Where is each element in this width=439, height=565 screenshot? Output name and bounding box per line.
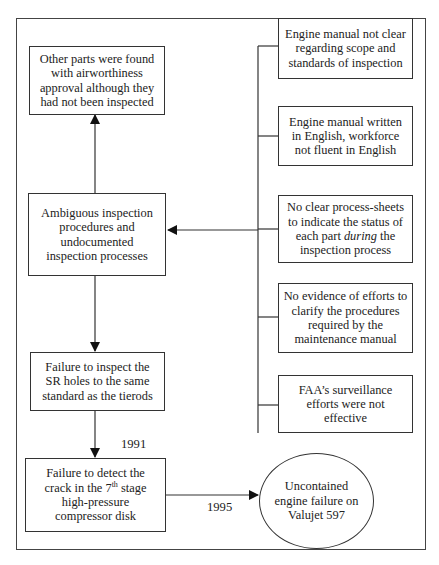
failure-detect-crack-box: Failure to detect the crack in the 7th s… xyxy=(25,458,166,532)
failure-sr-holes-text: Failure to inspect the SR holes to the s… xyxy=(39,360,156,403)
ambiguous-procedures-text: Ambiguous inspection procedures and undo… xyxy=(39,206,155,263)
outcome-ellipse: Uncontained engine failure on Valujet 59… xyxy=(259,453,374,549)
factor-faa-surveillance: FAA’s surveillance efforts were not effe… xyxy=(278,375,413,433)
ambiguous-procedures-box: Ambiguous inspection procedures and undo… xyxy=(28,193,166,276)
year-label-1991: 1991 xyxy=(121,437,146,452)
factor-no-process-sheets: No clear process-sheets to indicate the … xyxy=(278,195,413,263)
other-parts-text: Other parts were found with airworthines… xyxy=(34,52,160,109)
factor-manual-in-english: Engine manual written in English, workfo… xyxy=(278,106,413,166)
failure-detect-crack-text: Failure to detect the crack in the 7th s… xyxy=(32,466,159,523)
factor-no-process-sheets-text: No clear process-sheets to indicate the … xyxy=(283,200,408,257)
year-label-1995: 1995 xyxy=(207,500,232,515)
outcome-text: Uncontained engine failure on Valujet 59… xyxy=(274,479,359,523)
failure-sr-holes-box: Failure to inspect the SR holes to the s… xyxy=(30,352,165,411)
other-parts-box: Other parts were found with airworthines… xyxy=(29,46,165,115)
factor-engine-manual-unclear: Engine manual not clear regarding scope … xyxy=(278,18,413,79)
factor-no-clarification-efforts: No evidence of efforts to clarify the pr… xyxy=(278,283,413,353)
